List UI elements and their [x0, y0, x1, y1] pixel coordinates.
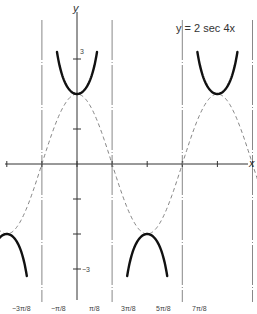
x-tick-neg3pi8: −3π/8	[12, 305, 31, 312]
chart-title: y = 2 sec 4x	[176, 22, 235, 34]
x-axis-label: x	[249, 157, 255, 169]
secant-branch	[127, 234, 167, 276]
secant-branch	[197, 52, 237, 94]
graph-figure: y = 2 sec 4x y x 3 −3 −3π/8 −π/8 π/8 3π/…	[0, 0, 257, 314]
x-tick-3pi8: 3π/8	[121, 305, 136, 312]
x-tick-5pi8: 5π/8	[156, 305, 171, 312]
x-tick-negpi8: −π/8	[51, 305, 66, 312]
x-tick-pi8: π/8	[89, 305, 100, 312]
y-tick-3: 3	[80, 48, 84, 55]
y-tick-neg3: −3	[82, 266, 90, 273]
secant-branch	[0, 234, 27, 276]
y-axis-label: y	[73, 2, 79, 14]
plot-area	[0, 0, 257, 314]
x-tick-7pi8: 7π/8	[192, 305, 207, 312]
